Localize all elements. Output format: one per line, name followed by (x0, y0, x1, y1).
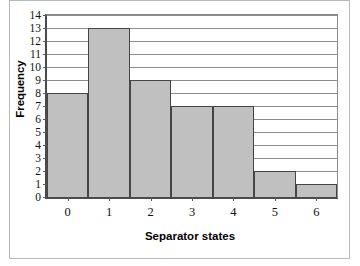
y-tick-label: 13 (30, 22, 42, 34)
bar (88, 28, 129, 197)
y-tick-label: 9 (35, 74, 41, 86)
y-tick-label: 6 (35, 113, 41, 125)
x-tick-label: 5 (272, 205, 278, 220)
x-tick-mark (192, 197, 193, 201)
y-tick-mark (43, 54, 47, 55)
y-tick-label: 11 (30, 48, 41, 60)
bar (254, 171, 295, 197)
y-tick-label: 4 (35, 139, 41, 151)
x-axis-title: Separator states (45, 230, 335, 242)
y-tick-label: 2 (35, 165, 41, 177)
y-tick-label: 14 (30, 9, 42, 21)
bar (47, 93, 88, 197)
y-tick-label: 1 (35, 178, 41, 190)
x-tick-mark (233, 197, 234, 201)
y-tick-label: 12 (30, 35, 42, 47)
y-tick-label: 8 (35, 87, 41, 99)
x-tick-mark (151, 197, 152, 201)
plot-area: 01234567891011121314 0123456 (45, 14, 338, 199)
bar (130, 80, 171, 197)
bar-chart-figure: Frequency 01234567891011121314 0123456 S… (0, 0, 360, 266)
bar (171, 106, 212, 197)
y-tick-mark (43, 15, 47, 16)
bar (213, 106, 254, 197)
y-tick-label: 3 (35, 152, 41, 164)
x-tick-label: 6 (313, 205, 319, 220)
x-tick-label: 4 (230, 205, 236, 220)
x-tick-mark (316, 197, 317, 201)
y-tick-mark (43, 197, 47, 198)
y-tick-label: 10 (30, 61, 42, 73)
y-tick-label: 5 (35, 126, 41, 138)
x-tick-label: 0 (65, 205, 71, 220)
gridline (47, 15, 337, 16)
y-tick-mark (43, 67, 47, 68)
x-tick-label: 1 (106, 205, 112, 220)
x-tick-label: 2 (147, 205, 153, 220)
y-tick-mark (43, 41, 47, 42)
y-tick-mark (43, 80, 47, 81)
y-tick-mark (43, 28, 47, 29)
bar (296, 184, 337, 197)
x-tick-mark (275, 197, 276, 201)
x-tick-mark (109, 197, 110, 201)
y-tick-label: 7 (35, 100, 41, 112)
y-axis-title: Frequency (14, 41, 26, 137)
x-tick-mark (68, 197, 69, 201)
x-tick-label: 3 (189, 205, 195, 220)
y-tick-label: 0 (35, 191, 41, 203)
